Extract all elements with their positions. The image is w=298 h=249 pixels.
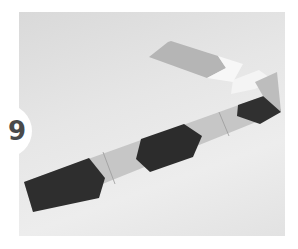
- step-number: 9: [8, 111, 26, 151]
- fabric-strip-illustration: [19, 12, 285, 236]
- fabric-strip-photo: [19, 12, 285, 236]
